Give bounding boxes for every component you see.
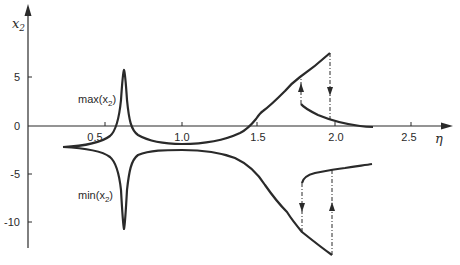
y-tick-neg10: -10 (4, 216, 20, 228)
jump-lines (301, 53, 332, 255)
x-axis-arrow-icon (441, 123, 453, 130)
x-axis-title: η (435, 131, 443, 146)
arrow-down-icon (299, 203, 305, 212)
min-upper-branch (302, 164, 372, 183)
arrow-up-icon (329, 202, 335, 211)
x-tick-1.0: 1.0 (174, 131, 189, 143)
x-tick-1.5: 1.5 (250, 131, 265, 143)
y-tick-5: 5 (14, 71, 20, 83)
min-curve (63, 147, 332, 255)
y-axis-title: x2 (12, 16, 25, 33)
min-label: min(x2) (78, 189, 113, 204)
max-label: max(x2) (78, 93, 116, 108)
y-tick-neg5: -5 (10, 168, 20, 180)
y-axis-arrow-icon (25, 4, 32, 16)
arrow-up-icon (298, 83, 304, 92)
y-axis: 5 0 -5 -10 x2 (4, 4, 32, 248)
y-tick-0: 0 (14, 120, 20, 132)
arrow-down-icon (327, 87, 333, 96)
x-tick-2.5: 2.5 (401, 131, 416, 143)
chart: 5 0 -5 -10 x2 0.5 1.0 1.5 2.0 2.5 η (0, 0, 460, 265)
x-tick-2.0: 2.0 (328, 131, 343, 143)
max-lower-branch (301, 104, 373, 127)
